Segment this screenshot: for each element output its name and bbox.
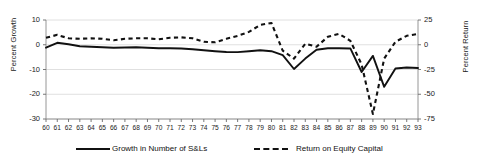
y-axis-right-tick: -25 bbox=[424, 66, 446, 74]
solid-line-swatch bbox=[76, 148, 110, 150]
y-axis-left-tick: -30 bbox=[18, 115, 40, 123]
dashed-line-swatch bbox=[254, 148, 288, 150]
y-axis-left-tick: -10 bbox=[18, 66, 40, 74]
y-axis-right-tick: -75 bbox=[424, 115, 446, 123]
y-axis-left-tick: 0 bbox=[18, 41, 40, 49]
chart-legend: Growth in Number of S&Ls Return on Equit… bbox=[0, 138, 478, 158]
legend-label-growth: Growth in Number of S&Ls bbox=[112, 144, 207, 153]
plot-area bbox=[0, 0, 478, 161]
tick-marks bbox=[43, 20, 421, 122]
data-series-lines bbox=[46, 23, 418, 114]
x-axis-tick: 93 bbox=[410, 124, 426, 132]
y-axis-right-tick: 0 bbox=[424, 41, 446, 49]
y-axis-right-tick: 25 bbox=[424, 16, 446, 24]
y-axis-left-tick: -20 bbox=[18, 90, 40, 98]
legend-label-return: Return on Equity Capital bbox=[296, 144, 383, 153]
y-axis-right-tick: -50 bbox=[424, 90, 446, 98]
chart-container: Percent Growth Percent Return 100-10-20-… bbox=[0, 0, 478, 161]
y-axis-left-tick: 10 bbox=[18, 16, 40, 24]
